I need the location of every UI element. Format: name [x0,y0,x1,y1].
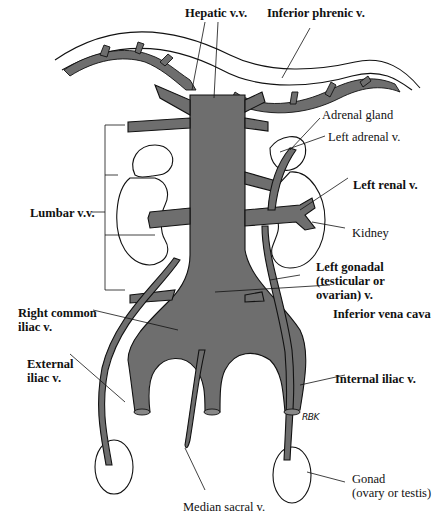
label-inferior-vena-cava: Inferior vena cava [333,307,431,321]
label-adrenal-gland: Adrenal gland [322,108,393,122]
right-gonad [95,440,133,494]
left-gonad [273,447,311,503]
label-external-iliac-vein: External iliac v. [27,357,74,385]
label-left-gonadal-vein: Left gonadal (testicular or ovarian) v. [316,260,385,302]
label-inferior-phrenic-vein: Inferior phrenic v. [267,6,365,20]
label-right-common-iliac-vein: Right common iliac v. [18,306,97,334]
inferior-vena-cava [128,95,306,412]
artist-signature: RBK [302,412,319,422]
left-adrenal-vein [268,148,296,210]
label-left-renal-vein: Left renal v. [353,178,418,192]
lumbar-vein-1 [128,118,190,132]
label-hepatic-veins: Hepatic v.v. [185,6,247,20]
lumbar-vein-2 [245,118,268,131]
right-renal-vein [148,208,190,228]
label-gonad: Gonad (ovary or testis) [352,472,431,500]
label-left-adrenal-vein: Left adrenal v. [328,130,400,144]
label-kidney: Kidney [352,226,389,240]
right-adrenal-gland [133,145,173,177]
label-lumbar-veins: Lumbar v.v. [30,206,95,220]
label-median-sacral-vein: Median sacral v. [183,500,265,514]
left-renal-vein [245,198,315,230]
anatomy-diagram: Hepatic v.v. Inferior phrenic v. Adrenal… [0,0,446,518]
label-internal-iliac-vein: Internal iliac v. [335,372,416,386]
ivc-illustration [0,0,446,518]
